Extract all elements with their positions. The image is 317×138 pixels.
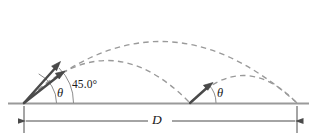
velocity-vector-45	[24, 74, 61, 103]
angle-label-45-degrees: 45.0°	[72, 78, 97, 90]
angle-label-theta-right: θ	[217, 86, 223, 101]
range-label-d: D	[152, 112, 162, 128]
angle-label-theta-left: θ	[57, 86, 63, 101]
projectile-motion-figure: 45.0° θ θ D	[0, 0, 317, 138]
trajectory-45-degree	[24, 42, 297, 104]
velocity-vector-theta	[24, 66, 58, 104]
